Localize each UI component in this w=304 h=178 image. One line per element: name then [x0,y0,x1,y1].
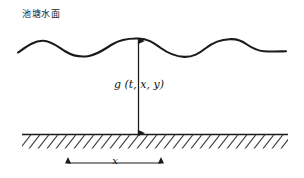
depth-function-label: g (t, x, y) [106,78,172,91]
horizontal-distance-label: x [104,155,126,166]
water-surface-curve [18,38,286,56]
pond-wave-diagram: 池塘水面 g (t, x, y) x [0,0,304,178]
water-surface-label: 池塘水面 [22,9,60,20]
